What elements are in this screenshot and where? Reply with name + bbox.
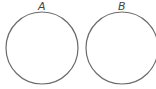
circle-b [86,12,156,84]
label-a: A [37,0,46,13]
label-b: B [118,0,126,13]
venn-diagram: A B [0,0,156,89]
circle-a [6,12,78,84]
